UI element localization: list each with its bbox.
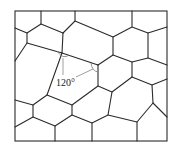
angle-annotation: 120° — [56, 51, 98, 88]
grain-boundaries — [15, 11, 167, 141]
angle-label: 120° — [56, 77, 75, 88]
frame-border — [15, 11, 167, 141]
grain-boundary-diagram: 120° — [0, 0, 178, 152]
leader-line-lower — [76, 69, 93, 77]
